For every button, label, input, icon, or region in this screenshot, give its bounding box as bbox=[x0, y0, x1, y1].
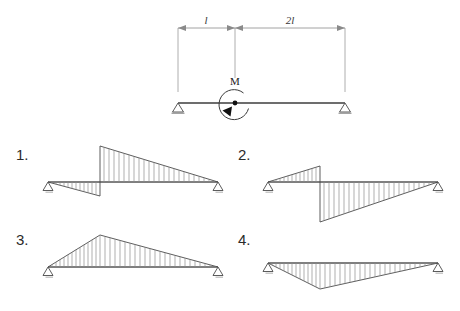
option-2-right-lobe bbox=[320, 182, 438, 222]
dim-arrowhead-left-2l bbox=[235, 25, 243, 31]
option-1[interactable]: 1. bbox=[16, 146, 223, 196]
option-4-number: 4. bbox=[238, 231, 251, 248]
option-3[interactable]: 3. bbox=[16, 231, 223, 278]
option-1-left-support bbox=[43, 182, 53, 193]
moment-application-point bbox=[233, 101, 238, 106]
option-3-left-support bbox=[43, 267, 53, 278]
pin-support bbox=[172, 103, 185, 113]
dimension-label-l: l bbox=[204, 14, 207, 26]
option-4-right-support bbox=[433, 263, 443, 274]
moment-arrowhead bbox=[223, 107, 233, 117]
option-2-left-support bbox=[263, 182, 273, 193]
roller-support bbox=[339, 103, 352, 113]
option-3-shape bbox=[48, 235, 218, 267]
applied-moment-symbol bbox=[219, 90, 248, 120]
dim-arrowhead-right-l bbox=[227, 25, 235, 31]
moment-label: M bbox=[230, 75, 240, 87]
dim-arrowhead-left-l bbox=[178, 25, 186, 31]
option-1-right-lobe bbox=[100, 146, 218, 182]
option-3-number: 3. bbox=[16, 231, 29, 248]
option-3-right-support bbox=[213, 267, 223, 278]
option-4-shape bbox=[268, 263, 438, 289]
option-2-left-lobe bbox=[268, 166, 320, 182]
bending-moment-figure: l 2l M 1. bbox=[0, 0, 460, 311]
option-1-right-support bbox=[213, 182, 223, 193]
option-2-number: 2. bbox=[238, 146, 251, 163]
dimension-label-2l: 2l bbox=[286, 14, 295, 26]
dim-arrowhead-right-2l bbox=[337, 25, 345, 31]
option-1-left-lobe bbox=[48, 182, 100, 196]
option-4[interactable]: 4. bbox=[238, 231, 443, 289]
option-2[interactable]: 2. bbox=[238, 146, 443, 222]
option-1-number: 1. bbox=[16, 146, 29, 163]
beam-diagram: l 2l M bbox=[172, 14, 352, 120]
